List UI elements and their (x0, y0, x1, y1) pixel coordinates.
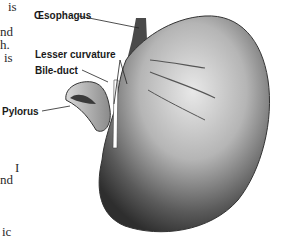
label-lesser-curvature: Lesser curvature (35, 49, 116, 60)
label-pylorus: Pylorus (2, 106, 39, 117)
label-oesophagus: Œsophagus (34, 10, 91, 21)
stomach-illustration (0, 0, 291, 246)
label-bile-duct: Bile-duct (35, 65, 78, 76)
